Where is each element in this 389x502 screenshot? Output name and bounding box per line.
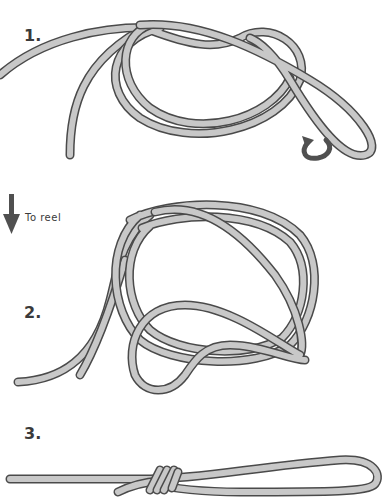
step-3-illustration	[10, 460, 377, 492]
step-2-illustration	[18, 205, 314, 390]
knot-diagram: 1. 2. 3. To reel	[0, 0, 389, 502]
arrow-down-icon	[3, 194, 20, 234]
step-1-illustration	[0, 24, 372, 158]
